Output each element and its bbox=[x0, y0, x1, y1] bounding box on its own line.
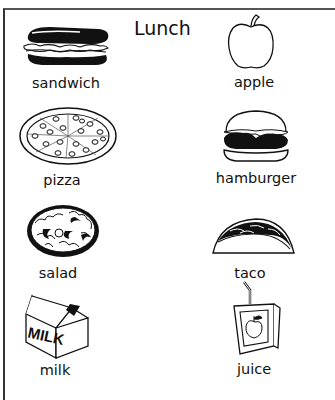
item-label-pizza: pizza bbox=[43, 172, 80, 188]
hamburger-icon bbox=[220, 108, 292, 164]
item-label-taco: taco bbox=[234, 265, 265, 281]
item-label-hamburger: hamburger bbox=[216, 170, 296, 186]
taco-icon bbox=[210, 215, 296, 255]
item-label-sandwich: sandwich bbox=[32, 75, 100, 91]
item-label-salad: salad bbox=[39, 265, 78, 281]
item-label-milk: milk bbox=[40, 362, 71, 378]
pizza-icon bbox=[18, 106, 118, 166]
juice-box-icon bbox=[230, 282, 282, 356]
salad-icon bbox=[25, 203, 101, 259]
apple-icon bbox=[226, 12, 276, 70]
milk-carton-icon: MILK bbox=[22, 294, 92, 360]
item-label-juice: juice bbox=[237, 361, 271, 377]
sandwich-icon bbox=[20, 24, 110, 68]
item-label-apple: apple bbox=[234, 74, 274, 90]
worksheet-title: Lunch bbox=[134, 17, 191, 39]
